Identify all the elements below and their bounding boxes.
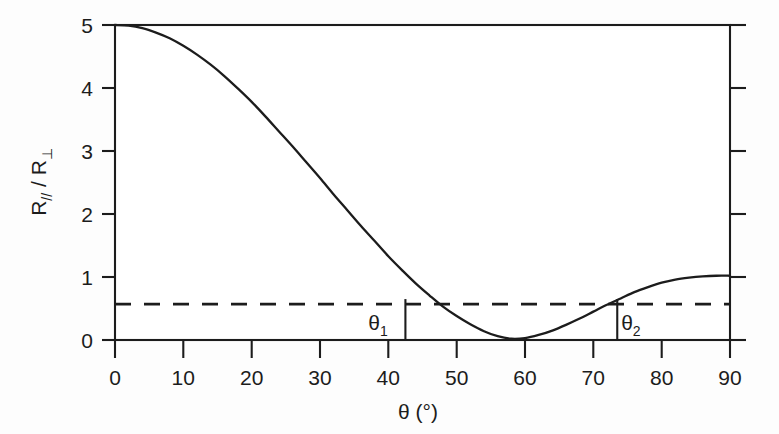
y-tick-label-2: 2 <box>81 203 93 226</box>
x-axis-title-unit: (°) <box>410 400 438 423</box>
y-axis-title-denominator-sub: ⊥ <box>39 148 55 160</box>
x-axis-title-symbol: θ <box>398 400 410 423</box>
x-tick-label-90: 90 <box>718 366 741 389</box>
figure-container: 0 1 2 3 4 5 <box>0 0 779 434</box>
y-tick-label-1: 1 <box>81 266 93 289</box>
x-tick-label-40: 40 <box>377 366 400 389</box>
theta-1-symbol: θ <box>368 311 380 334</box>
y-axis-tick-labels: 0 1 2 3 4 5 <box>81 14 93 352</box>
y-axis-title-denominator: R <box>27 160 50 175</box>
theta-1-subscript: 1 <box>380 323 388 339</box>
y-tick-label-0: 0 <box>81 329 93 352</box>
x-tick-label-60: 60 <box>513 366 536 389</box>
theta-2-symbol: θ <box>621 311 633 334</box>
theta-2-subscript: 2 <box>633 323 641 339</box>
x-tick-label-0: 0 <box>109 366 121 389</box>
x-axis-ticks <box>115 340 730 358</box>
y-axis-title-numerator: R <box>27 201 50 216</box>
y-tick-label-4: 4 <box>81 77 93 100</box>
x-axis-title: θ (°) <box>398 400 438 423</box>
x-tick-label-30: 30 <box>308 366 331 389</box>
y-tick-label-3: 3 <box>81 140 93 163</box>
plot-area-background <box>115 25 730 340</box>
y-axis-ticks-left <box>102 25 115 340</box>
reflectance-ratio-chart: 0 1 2 3 4 5 <box>0 0 779 434</box>
y-tick-label-5: 5 <box>81 14 93 37</box>
x-tick-label-80: 80 <box>650 366 673 389</box>
x-tick-label-50: 50 <box>445 366 468 389</box>
y-axis-title-separator: / <box>27 175 50 193</box>
x-tick-label-20: 20 <box>240 366 263 389</box>
x-tick-label-70: 70 <box>582 366 605 389</box>
x-axis-tick-labels: 0 10 20 30 40 50 60 70 80 90 <box>109 366 742 389</box>
y-axis-title-group: R// / R⊥ <box>27 148 55 216</box>
x-tick-label-10: 10 <box>172 366 195 389</box>
y-axis-title-numerator-sub: // <box>39 193 55 201</box>
y-axis-title: R// / R⊥ <box>27 148 55 216</box>
y-axis-ticks-right <box>730 25 746 340</box>
